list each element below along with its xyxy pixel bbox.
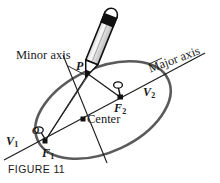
center-marker: [81, 117, 86, 122]
label-focus-1-subscript: 1: [50, 152, 54, 161]
label-vertex-1-letter: V: [6, 134, 14, 148]
label-vertex-1: V1: [6, 135, 18, 149]
tack-at-focus-2: [114, 82, 123, 100]
label-focus-2-letter: F: [114, 101, 122, 115]
label-focus-2-subscript: 2: [122, 107, 126, 116]
ellipse-diagram-svg: [0, 0, 220, 183]
label-vertex-2: V2: [143, 86, 155, 100]
label-focus-2: F2: [114, 102, 126, 116]
ellipse-figure: Minor axis Major axis Center P V1 V2 F1 …: [0, 0, 220, 183]
label-tack-left: O: [32, 126, 39, 136]
pencil-icon: [80, 6, 120, 79]
figure-caption: FIGURE 11: [8, 163, 65, 175]
label-vertex-2-subscript: 2: [151, 91, 155, 100]
label-vertex-1-subscript: 1: [14, 140, 18, 149]
label-focus-1-letter: F: [42, 146, 50, 160]
label-point-p: P: [76, 60, 83, 72]
string-segments: [45, 74, 120, 141]
label-focus-1: F1: [42, 147, 54, 161]
label-minor-axis: Minor axis: [16, 49, 71, 62]
major-axis-line: [4, 53, 205, 160]
label-vertex-2-letter: V: [143, 85, 151, 99]
